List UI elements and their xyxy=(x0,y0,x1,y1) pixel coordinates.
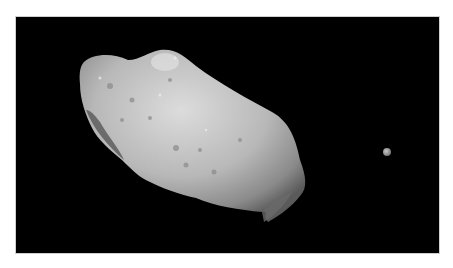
moon xyxy=(383,148,391,156)
asteroid xyxy=(80,50,306,222)
space-photo xyxy=(0,0,453,268)
